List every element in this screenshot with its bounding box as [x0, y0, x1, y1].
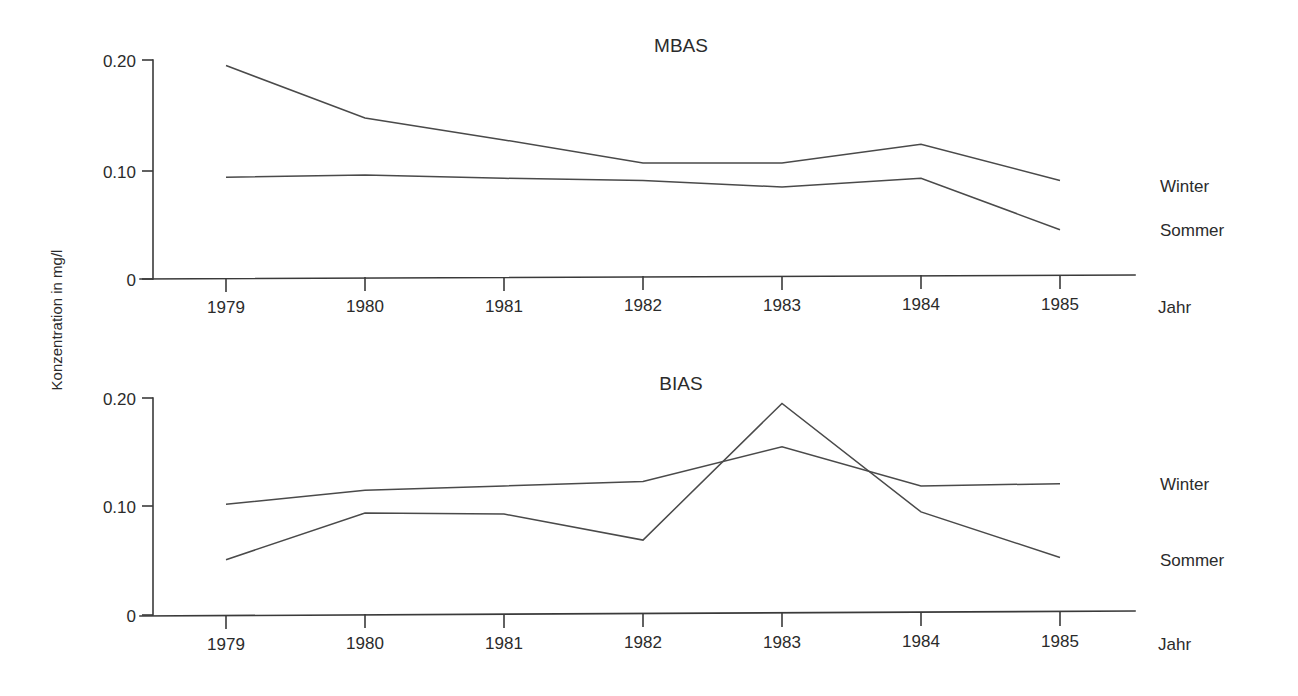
series-label-mbas-sommer: Sommer	[1160, 221, 1225, 240]
x-tick-label-mbas-0: 1979	[207, 298, 245, 317]
y-tick-label-bias-0: 0.20	[103, 390, 136, 409]
x-tick-label-mbas-4: 1983	[763, 296, 801, 315]
x-axis-bias	[140, 611, 1135, 616]
y-tick-label-mbas-0: 0.20	[103, 52, 136, 71]
y-axis-label-group: Konzentration in mg/l	[48, 250, 65, 391]
series-line-mbas-sommer	[226, 175, 1060, 230]
y-axis-label: Konzentration in mg/l	[48, 250, 65, 391]
figure-root: Konzentration in mg/l MBAS 0.20 0.10 0	[0, 0, 1298, 696]
x-tick-label-bias-0: 1979	[207, 635, 245, 654]
figure-svg: Konzentration in mg/l MBAS 0.20 0.10 0	[0, 0, 1298, 696]
x-tick-label-bias-1: 1980	[346, 634, 384, 653]
x-axis-mbas	[140, 275, 1135, 279]
x-tick-label-bias-6: 1985	[1041, 632, 1079, 651]
x-tick-label-bias-3: 1982	[624, 633, 662, 652]
x-tick-label-bias-4: 1983	[763, 633, 801, 652]
y-ticks-bias	[142, 398, 153, 615]
chart-title-mbas: MBAS	[654, 35, 708, 56]
series-line-bias-winter	[226, 447, 1060, 505]
x-tick-label-mbas-5: 1984	[902, 295, 940, 314]
x-tick-label-bias-2: 1981	[485, 634, 523, 653]
chart-bias: BIAS 0.20 0.10 0	[103, 373, 1225, 654]
chart-mbas: MBAS 0.20 0.10 0	[103, 35, 1225, 317]
series-label-bias-sommer: Sommer	[1160, 551, 1225, 570]
series-label-mbas-winter: Winter	[1160, 177, 1209, 196]
series-line-mbas-winter	[226, 66, 1060, 181]
y-tick-label-mbas-2: 0	[127, 271, 136, 290]
x-tick-label-mbas-3: 1982	[624, 296, 662, 315]
x-tick-label-bias-5: 1984	[902, 632, 940, 651]
x-axis-name-mbas: Jahr	[1158, 298, 1191, 317]
y-tick-label-mbas-1: 0.10	[103, 163, 136, 182]
y-ticks-mbas	[142, 60, 153, 279]
x-axis-name-bias: Jahr	[1158, 635, 1191, 654]
x-tick-label-mbas-1: 1980	[346, 297, 384, 316]
y-tick-label-bias-2: 0	[127, 607, 136, 626]
x-tick-label-mbas-6: 1985	[1041, 295, 1079, 314]
series-label-bias-winter: Winter	[1160, 475, 1209, 494]
y-tick-label-bias-1: 0.10	[103, 498, 136, 517]
x-tick-label-mbas-2: 1981	[485, 297, 523, 316]
chart-title-bias: BIAS	[659, 373, 702, 394]
